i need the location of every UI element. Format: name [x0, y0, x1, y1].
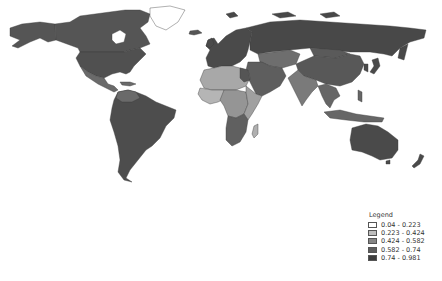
region-europe [206, 28, 252, 68]
map-legend: Legend 0.04 - 0.223 0.223 - 0.424 0.424 … [368, 211, 442, 262]
region-alaska [10, 22, 56, 48]
legend-label: 0.223 - 0.424 [381, 229, 425, 237]
legend-swatch [368, 222, 377, 228]
region-canada [55, 10, 150, 52]
legend-label: 0.74 - 0.981 [381, 254, 421, 262]
region-arctic-islands [272, 12, 296, 18]
legend-swatch [368, 247, 377, 253]
legend-swatch [368, 255, 377, 261]
region-madagascar [252, 124, 258, 138]
region-indonesia [324, 110, 384, 122]
legend-label: 0.424 - 0.582 [381, 237, 425, 245]
legend-item: 0.424 - 0.582 [368, 237, 442, 245]
region-svalbard [226, 12, 238, 18]
region-greenland [150, 6, 185, 30]
region-tasmania [386, 160, 390, 164]
region-iceland [189, 30, 202, 35]
region-new-zealand [412, 154, 424, 168]
legend-swatch [368, 230, 377, 236]
region-australia [350, 124, 398, 160]
region-japan [370, 58, 380, 74]
region-philippines [358, 90, 362, 102]
region-korea [364, 64, 368, 72]
legend-item: 0.04 - 0.223 [368, 221, 442, 229]
legend-swatch [368, 238, 377, 244]
legend-item: 0.74 - 0.981 [368, 254, 442, 262]
legend-label: 0.582 - 0.74 [381, 246, 421, 254]
region-caribbean [120, 82, 136, 86]
region-southern-africa [226, 114, 248, 146]
region-southeast-asia [318, 84, 340, 108]
legend-label: 0.04 - 0.223 [381, 221, 421, 229]
legend-item: 0.223 - 0.424 [368, 229, 442, 237]
legend-item: 0.582 - 0.74 [368, 246, 442, 254]
legend-title: Legend [369, 211, 442, 219]
region-arctic-islands-2 [320, 12, 340, 18]
region-central-africa [220, 90, 248, 118]
region-south-america [110, 90, 176, 182]
